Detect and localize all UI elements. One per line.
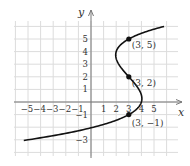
chart: −5−4−3−2−11234554321−1−3 (3, 5)(3, 2)(3,… [0,0,190,166]
svg-text:−3: −3 [46,104,59,114]
svg-text:−4: −4 [33,104,46,114]
svg-text:−3: −3 [75,135,88,145]
data-point [126,112,131,117]
annotated-points: (3, 5)(3, 2)(3, −1) [126,36,163,127]
data-point [126,74,131,79]
svg-text:5: 5 [83,34,88,44]
point-label: (3, −1) [132,118,164,128]
svg-text:3: 3 [83,59,88,69]
svg-text:1: 1 [101,104,106,114]
svg-text:1: 1 [83,84,88,94]
svg-text:4: 4 [83,47,88,57]
svg-text:−2: −2 [59,104,72,114]
point-label: (3, 5) [132,40,156,50]
data-point [126,36,131,41]
x-axis-label: x [178,106,185,119]
svg-text:−1: −1 [75,110,88,120]
point-label: (3, 2) [132,78,156,88]
svg-text:2: 2 [113,104,118,114]
axes [14,10,182,158]
svg-text:5: 5 [151,104,156,114]
svg-text:2: 2 [83,72,88,82]
y-axis-label: y [77,6,85,19]
svg-text:−5: −5 [21,104,34,114]
